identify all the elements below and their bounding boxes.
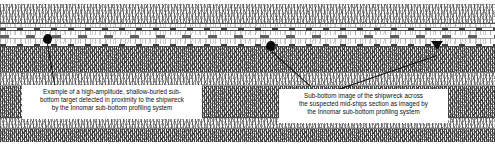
right-callout-line-3: the Innomar sub-bottom profiling system (283, 108, 444, 116)
right-callout-line-2: the suspected mid-ships section as image… (283, 100, 444, 108)
sonar-layer-sediment-2 (0, 73, 495, 85)
left-callout-line-2: bottom target detected in proximity to t… (26, 96, 198, 104)
sonar-layer-sediment-5 (0, 129, 495, 142)
blob-marker-middle (266, 41, 275, 51)
left-callout-line-3: by the Innomar sub-bottom profiling syst… (26, 104, 198, 112)
left-callout-line-1: Example of a high-amplitude, shallow-bur… (26, 88, 198, 96)
blob-marker-left (43, 34, 52, 44)
sonar-figure: Example of a high-amplitude, shallow-bur… (0, 0, 495, 158)
arrowhead-marker-right (431, 41, 443, 50)
right-callout-box: Sub-bottom image of the shipwreck across… (279, 89, 448, 123)
sonar-layer-upper-speckle (0, 4, 495, 23)
right-callout-line-1: Sub-bottom image of the shipwreck across (283, 92, 444, 100)
left-callout-box: Example of a high-amplitude, shallow-bur… (22, 85, 202, 119)
